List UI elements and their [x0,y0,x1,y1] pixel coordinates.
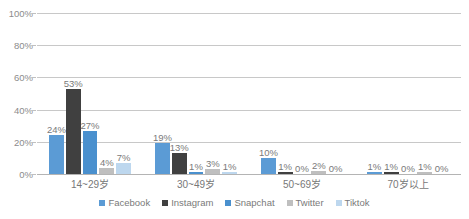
bar-value-label: 13% [170,142,189,153]
bar-value-label: 2% [312,160,326,171]
y-axis-tick-mark [32,13,36,14]
gridline [37,174,461,175]
bar[interactable] [261,158,276,174]
bar-group-bars: 19%13%1%3%1% [143,13,249,174]
bar-value-label: 1% [278,161,292,172]
y-axis-tick-label: 40% [0,104,33,115]
bar[interactable] [278,172,293,174]
bar[interactable] [155,143,170,174]
legend-swatch-icon [225,200,231,206]
bar[interactable] [99,168,114,174]
bar-slot: 4% [99,13,114,174]
bar[interactable] [49,135,64,174]
bar-value-label: 0% [435,163,449,174]
legend-label: Snapchat [234,197,274,208]
bar-value-label: 4% [100,157,114,168]
bar-group: 10%1%0%2%0% [249,13,355,174]
bar-group: 24%53%27%4%7% [37,13,143,174]
y-axis-tick-mark [32,142,36,143]
bar[interactable] [205,169,220,174]
bar-chart: 0%20%40%60%80%100% 24%53%27%4%7%19%13%1%… [0,0,469,219]
bar[interactable] [222,172,237,174]
bar-slot: 13% [172,13,187,174]
x-axis-category-label: 14~29岁 [37,176,143,191]
y-axis-tick-mark [32,77,36,78]
x-axis-category-label: 30~49岁 [143,176,249,191]
y-axis-tick-label: 80% [0,40,33,51]
bar-value-label: 0% [401,163,415,174]
bar-slot: 3% [205,13,220,174]
y-axis-labels: 0%20%40%60%80%100% [0,13,33,174]
legend-item-facebook[interactable]: Facebook [99,197,150,208]
bar-slot: 53% [66,13,81,174]
legend-label: Instagram [171,197,213,208]
bar-slot: 1% [384,13,399,174]
bar-slot: 7% [116,13,131,174]
legend-item-twitter[interactable]: Twitter [287,197,324,208]
bar-groups: 24%53%27%4%7%19%13%1%3%1%10%1%0%2%0%1%1%… [37,13,461,174]
bar[interactable] [311,171,326,174]
legend-swatch-icon [99,200,105,206]
bar-group: 1%1%0%1%0% [355,13,461,174]
y-axis-tick-label: 60% [0,72,33,83]
legend-item-tiktok[interactable]: Tiktok [336,197,370,208]
y-axis-tick-mark [32,110,36,111]
bar-value-label: 0% [295,163,309,174]
y-axis-tick-mark [32,45,36,46]
legend-item-instagram[interactable]: Instagram [162,197,213,208]
bar-slot: 1% [278,13,293,174]
bar-slot: 10% [261,13,276,174]
legend-swatch-icon [287,200,293,206]
bar-value-label: 7% [117,152,131,163]
bar-slot: 2% [311,13,326,174]
x-axis-category-label: 70岁以上 [355,176,461,191]
bar-slot: 0% [295,13,310,174]
bar-value-label: 1% [223,161,237,172]
bar-value-label: 0% [329,163,343,174]
legend-swatch-icon [162,200,168,206]
bar-slot: 0% [401,13,416,174]
y-axis-tick-label: 0% [0,169,33,180]
bar[interactable] [172,153,187,174]
y-axis-tick-label: 20% [0,136,33,147]
plot-area: 24%53%27%4%7%19%13%1%3%1%10%1%0%2%0%1%1%… [37,13,461,174]
bar-value-label: 10% [259,147,278,158]
bar-group: 19%13%1%3%1% [143,13,249,174]
legend-label: Facebook [108,197,150,208]
bar-value-label: 1% [418,161,432,172]
bar-slot: 1% [222,13,237,174]
bar[interactable] [384,172,399,174]
bar-group-bars: 10%1%0%2%0% [249,13,355,174]
bar-value-label: 1% [189,161,203,172]
bar-value-label: 1% [384,161,398,172]
bar[interactable] [417,172,432,174]
bar-slot: 19% [155,13,170,174]
bar[interactable] [116,163,131,174]
legend-item-snapchat[interactable]: Snapchat [225,197,274,208]
bar-value-label: 53% [64,78,83,89]
legend-label: Twitter [296,197,324,208]
bar[interactable] [367,172,382,174]
bar-slot: 0% [434,13,449,174]
legend-label: Tiktok [345,197,370,208]
bar-group-bars: 1%1%0%1%0% [355,13,461,174]
x-axis-category-label: 50~69岁 [249,176,355,191]
bar[interactable] [83,131,98,174]
y-axis-tick-mark [32,174,36,175]
bar-value-label: 3% [206,158,220,169]
chart-legend: FacebookInstagramSnapchatTwitterTiktok [0,197,469,208]
bar-slot: 27% [83,13,98,174]
x-axis-category-labels: 14~29岁30~49岁50~69岁70岁以上 [37,176,461,191]
bar-group-bars: 24%53%27%4%7% [37,13,143,174]
bar-value-label: 24% [47,124,66,135]
legend-swatch-icon [336,200,342,206]
y-axis-tick-label: 100% [0,8,33,19]
bar-slot: 24% [49,13,64,174]
bar[interactable] [66,89,81,174]
bar-slot: 0% [328,13,343,174]
bar-slot: 1% [367,13,382,174]
bar-value-label: 1% [368,161,382,172]
bar[interactable] [189,172,204,174]
bar-slot: 1% [417,13,432,174]
bar-slot: 1% [189,13,204,174]
